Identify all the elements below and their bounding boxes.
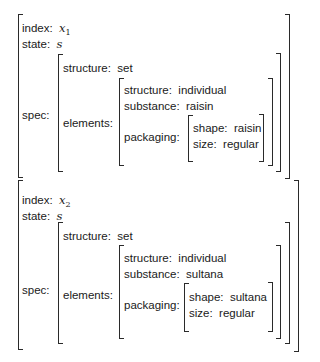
elements-substance-row: substance: sultana (124, 267, 223, 281)
index-label: index: (22, 22, 53, 34)
elements-substance-row: substance: raisin (124, 99, 214, 113)
packaging-shape-row: shape: sultana (189, 290, 267, 304)
outer-bracket-right (285, 14, 290, 179)
index-label: index: (22, 194, 53, 206)
elements-label: elements: (63, 116, 113, 130)
spec-structure-row: structure: set (63, 229, 133, 243)
elements-structure-row: structure: individual (124, 251, 226, 265)
state-label: state: (22, 210, 50, 222)
spec-structure-row: structure: set (63, 61, 133, 75)
spec-structure-value: set (117, 62, 132, 74)
outer-bracket-right (294, 180, 299, 352)
packaging-shape-row: shape: raisin (193, 121, 261, 135)
spec-bracket-right (285, 222, 290, 344)
packaging-size-row: size: regular (189, 306, 255, 320)
packaging-label: packaging: (124, 298, 180, 312)
elements-bracket-right (276, 245, 281, 339)
elements-label: elements: (63, 288, 113, 302)
state-label: state: (22, 38, 50, 50)
elements-bracket-right (268, 78, 273, 166)
index-var: x1 (59, 21, 71, 35)
packaging-bracket-right (268, 282, 273, 332)
index-var: x2 (59, 193, 71, 207)
state-row: state: s (22, 37, 62, 51)
spec-structure-label: structure: (63, 62, 111, 74)
state-row: state: s (22, 209, 62, 223)
state-value: s (57, 37, 63, 51)
packaging-label: packaging: (124, 130, 180, 144)
spec-bracket-right (276, 53, 281, 172)
spec-label: spec: (22, 283, 50, 297)
spec-label: spec: (22, 108, 50, 122)
elements-structure-row: structure: individual (124, 83, 226, 97)
state-value: s (57, 209, 63, 223)
packaging-size-row: size: regular (193, 137, 259, 151)
